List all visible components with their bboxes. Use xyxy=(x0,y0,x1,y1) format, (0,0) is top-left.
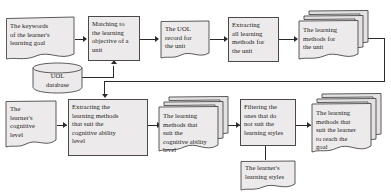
node-cognitive-level: The learner's cognitive level xyxy=(5,100,57,147)
node-cognitive-level-label: The learner's cognitive level xyxy=(10,105,54,139)
arrowhead-keywords-to-matching xyxy=(83,36,87,42)
node-learning-styles: The learner's learning styles xyxy=(240,160,296,189)
edge-methodsunit-to-extractcog-h2 xyxy=(104,81,385,82)
node-methods-reach-goal-label: The learning methods that suit the learn… xyxy=(316,109,370,152)
arrowhead-matching-to-uolrecord xyxy=(155,36,159,42)
node-extract-cognitive-methods: Extracting the learning methods that sui… xyxy=(68,99,148,156)
node-matching-label: Matching to the learning objective of a … xyxy=(92,20,138,54)
edge-database-to-matching-v xyxy=(113,66,114,78)
flowchart-canvas: The keywords of the learner's learning g… xyxy=(0,0,391,194)
node-uol-record-label: The UOL record for the unit xyxy=(165,25,209,51)
edge-learningstyles-to-filtering xyxy=(265,146,266,160)
node-extract-all-methods: Extracting all learning methods for the … xyxy=(228,17,279,62)
node-methods-cognitive: The learning methods that suit the cogni… xyxy=(158,95,236,155)
arrowhead-cognitivelevel-to-extractcog xyxy=(63,122,67,128)
node-filtering: Filtering the ones that do not suit the … xyxy=(240,99,296,146)
arrowhead-methodsunit-to-extractcog xyxy=(102,94,108,98)
edge-methodsunit-to-extractcog-v1 xyxy=(384,38,385,82)
node-extract-cognitive-methods-label: Extracting the learning methods that sui… xyxy=(72,103,146,146)
node-keywords-label: The keywords of the learner's learning g… xyxy=(10,22,72,48)
node-uol-database-label: UOL database xyxy=(36,72,79,89)
node-matching: Matching to the learning objective of a … xyxy=(88,16,140,61)
node-methods-reach-goal: The learning methods that suit the learn… xyxy=(311,92,389,158)
node-methods-cognitive-label: The learning methods that suit the cogni… xyxy=(163,112,217,155)
node-keywords: The keywords of the learner's learning g… xyxy=(5,16,75,59)
node-methods-for-unit-label: The learning methods for the unit xyxy=(303,26,357,52)
edge-methodsunit-to-extractcog-v2 xyxy=(104,81,105,95)
edge-database-to-matching-h xyxy=(82,77,114,78)
node-uol-record: The UOL record for the unit xyxy=(160,20,210,57)
node-learning-styles-label: The learner's learning styles xyxy=(245,164,295,181)
node-uol-database: UOL database xyxy=(32,62,83,94)
node-methods-for-unit: The learning methods for the unit xyxy=(298,9,378,64)
node-filtering-label: Filtering the ones that do not suit the … xyxy=(244,103,295,137)
node-extract-all-methods-label: Extracting all learning methods for the … xyxy=(232,21,278,55)
